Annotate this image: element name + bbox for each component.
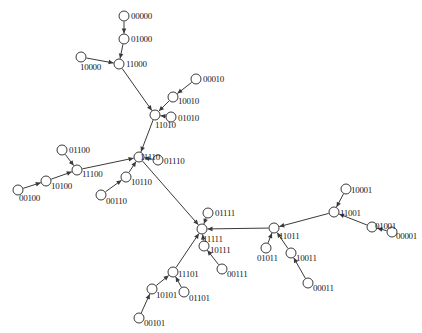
graph-node[interactable] xyxy=(269,223,279,233)
graph-node[interactable] xyxy=(261,243,271,253)
graph-node-label: 01110 xyxy=(164,157,184,166)
edge-arrowhead-icon xyxy=(147,105,152,110)
graph-node-label: 01000 xyxy=(131,35,152,44)
edge-arrowhead-icon xyxy=(194,234,199,239)
edge-arrowhead-icon xyxy=(204,218,208,223)
graph-node[interactable] xyxy=(341,184,351,194)
graph-node[interactable] xyxy=(150,110,160,120)
graph-node-label: 10011 xyxy=(296,254,317,263)
graph-node-label: 11111 xyxy=(203,235,223,244)
graph-canvas xyxy=(0,0,422,333)
graph-edge xyxy=(279,213,328,226)
graph-edge xyxy=(207,228,268,229)
edge-arrowhead-icon xyxy=(160,114,165,119)
graph-node-label: 00000 xyxy=(131,12,152,21)
graph-node[interactable] xyxy=(96,190,106,200)
graph-node-label: 00010 xyxy=(203,75,224,84)
nodes-layer xyxy=(13,11,397,323)
edge-arrowhead-icon xyxy=(108,60,113,65)
graph-node[interactable] xyxy=(179,287,189,297)
graph-node[interactable] xyxy=(76,52,86,62)
graph-node-label: 10110 xyxy=(131,178,152,187)
graph-node[interactable] xyxy=(119,34,129,44)
graph-node-label: 00100 xyxy=(19,194,40,203)
graph-node-label: 10111 xyxy=(210,246,230,255)
edge-arrowhead-icon xyxy=(119,53,124,58)
graph-node[interactable] xyxy=(197,224,207,234)
graph-node-label: 00110 xyxy=(106,197,127,206)
edge-arrowhead-icon xyxy=(128,157,133,162)
graph-node[interactable] xyxy=(168,267,178,277)
graph-node-label: 10100 xyxy=(51,182,72,191)
graph-node[interactable] xyxy=(57,145,67,155)
edge-arrowhead-icon xyxy=(207,227,212,232)
graph-node-label: 11101 xyxy=(178,270,198,279)
graph-node-label: 11010 xyxy=(155,121,176,130)
graph-node-label: 00011 xyxy=(313,284,334,293)
graph-node[interactable] xyxy=(134,313,144,323)
graph-figure: 0000001000110001000000010100100101011010… xyxy=(0,0,422,333)
graph-node[interactable] xyxy=(191,74,201,84)
graph-node[interactable] xyxy=(329,207,339,217)
graph-node-label: 10010 xyxy=(178,97,199,106)
graph-edge xyxy=(143,161,199,225)
graph-node[interactable] xyxy=(203,208,213,218)
edge-arrowhead-icon xyxy=(116,180,121,185)
graph-node-label: 00111 xyxy=(227,270,247,279)
graph-edge xyxy=(82,158,133,169)
graph-node-label: 11001 xyxy=(340,209,361,218)
graph-node-label: 11011 xyxy=(279,232,299,241)
graph-node[interactable] xyxy=(168,92,178,102)
graph-node[interactable] xyxy=(41,176,51,186)
edge-arrowhead-icon xyxy=(131,162,136,167)
graph-node[interactable] xyxy=(303,278,313,288)
edge-arrowhead-icon xyxy=(69,160,74,165)
graph-node[interactable] xyxy=(119,11,129,21)
graph-node-label: 11000 xyxy=(126,60,147,69)
graph-node-label: 10000 xyxy=(80,63,101,72)
graph-node-label: 00101 xyxy=(144,319,165,328)
graph-node[interactable] xyxy=(217,264,227,274)
graph-node-label: 01101 xyxy=(189,294,210,303)
graph-node[interactable] xyxy=(72,165,82,175)
graph-node-label: 11110 xyxy=(140,153,160,162)
graph-node-label: 01001 xyxy=(375,222,396,231)
graph-node-label: 01100 xyxy=(69,146,90,155)
graph-node[interactable] xyxy=(121,172,131,182)
graph-node-label: 10101 xyxy=(156,291,177,300)
graph-node[interactable] xyxy=(114,59,124,69)
graph-node-label: 01111 xyxy=(215,209,235,218)
graph-edge xyxy=(176,234,199,268)
graph-edge xyxy=(141,120,153,152)
graph-node-label: 10001 xyxy=(351,186,372,195)
graph-edge xyxy=(122,68,152,110)
graph-node-label: 01011 xyxy=(257,254,278,263)
edge-arrowhead-icon xyxy=(66,171,71,175)
graph-node-label: 01010 xyxy=(178,114,199,123)
graph-node-label: 11100 xyxy=(82,170,102,179)
edge-arrowhead-icon xyxy=(35,182,40,186)
graph-node-label: 00001 xyxy=(396,232,417,241)
edge-arrowhead-icon xyxy=(122,29,127,34)
graph-node[interactable] xyxy=(286,248,296,258)
